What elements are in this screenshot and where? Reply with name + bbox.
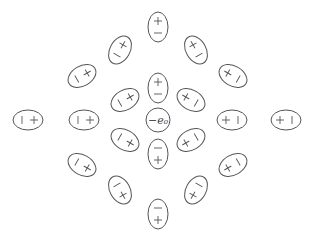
dipole-15 xyxy=(64,149,100,181)
dipole-17 xyxy=(173,124,209,156)
dipole-ellipse xyxy=(69,110,99,130)
dipole-6 xyxy=(217,110,247,130)
dipole-1 xyxy=(148,73,168,103)
dipole-14 xyxy=(107,124,143,156)
dipole-8 xyxy=(104,32,136,68)
dipole-16 xyxy=(104,172,136,208)
dipole-3 xyxy=(148,199,168,229)
dipole-ellipse xyxy=(104,32,136,68)
dipole-10 xyxy=(107,84,143,116)
dipole-13 xyxy=(173,84,209,116)
dipole-ellipse xyxy=(215,149,251,181)
dipole-ellipse xyxy=(64,149,100,181)
dipole-diagram: −e₀ xyxy=(0,0,314,240)
dipole-7 xyxy=(271,110,301,130)
dipole-ellipse xyxy=(217,110,247,130)
dipole-9 xyxy=(64,60,100,92)
dipole-ellipse xyxy=(180,32,212,68)
central-charge: −e₀ xyxy=(146,108,170,132)
dipole-ellipse xyxy=(148,139,168,169)
dipole-18 xyxy=(215,149,251,181)
dipole-12 xyxy=(215,60,251,92)
dipole-ellipse xyxy=(13,110,43,130)
dipole-ellipse xyxy=(64,60,100,92)
dipole-ellipse xyxy=(104,172,136,208)
dipole-ellipse xyxy=(180,172,212,208)
dipole-ellipse xyxy=(173,84,209,116)
dipole-5 xyxy=(69,110,99,130)
dipole-2 xyxy=(148,139,168,169)
dipole-ellipse xyxy=(148,73,168,103)
dipole-ellipse xyxy=(173,124,209,156)
dipole-ellipse xyxy=(271,110,301,130)
central-charge-label: −e₀ xyxy=(148,114,169,127)
dipole-4 xyxy=(13,110,43,130)
dipole-ellipse xyxy=(148,199,168,229)
dipole-11 xyxy=(180,32,212,68)
dipole-ellipse xyxy=(107,84,143,116)
dipole-ellipse xyxy=(148,12,168,42)
dipole-ellipse xyxy=(215,60,251,92)
dipole-ellipse xyxy=(107,124,143,156)
dipole-0 xyxy=(148,12,168,42)
dipole-19 xyxy=(180,172,212,208)
